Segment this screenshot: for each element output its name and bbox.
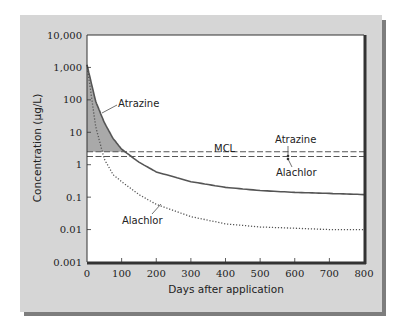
alachlor-curve-label: Alachlor (122, 215, 163, 226)
y-tick-label: 0.001 (53, 257, 82, 268)
y-tick-label: 100 (63, 94, 82, 105)
atrazine-curve-label: Atrazine (118, 98, 159, 109)
mcl-atrazine-label: Atrazine (275, 134, 316, 145)
mcl-atrazine-marker (287, 155, 290, 158)
y-tick-label: 10,000 (47, 30, 82, 41)
x-tick-label: 400 (216, 268, 235, 279)
y-tick-label: 10 (69, 127, 82, 138)
y-tick-label: 1 (76, 159, 82, 170)
x-tick-label: 0 (84, 268, 90, 279)
x-tick-label: 700 (320, 268, 339, 279)
mcl-alachlor-label: Alachlor (276, 167, 317, 178)
mcl-label: MCL (214, 143, 236, 154)
x-tick-label: 600 (285, 268, 304, 279)
y-axis-title: Concentration (μg/L) (31, 94, 43, 203)
x-tick-label: 100 (112, 268, 131, 279)
x-tick-label: 200 (147, 268, 166, 279)
y-tick-label: 0.1 (66, 192, 82, 203)
x-axis-title: Days after application (168, 283, 284, 295)
x-tick-label: 800 (354, 268, 373, 279)
y-tick-label: 0.01 (60, 224, 82, 235)
y-tick-label: 1,000 (53, 62, 82, 73)
x-tick-label: 500 (251, 268, 270, 279)
chart-figure: 10,0001,0001001010.10.010.001 0100200300… (0, 0, 401, 330)
x-tick-label: 300 (181, 268, 200, 279)
mcl-alachlor-marker (287, 158, 290, 161)
